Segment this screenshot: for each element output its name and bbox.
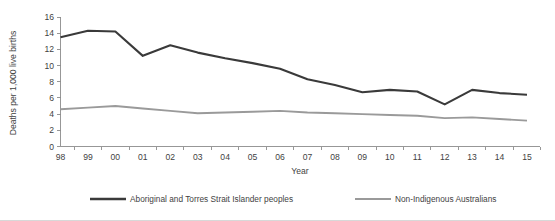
line-chart-figure: Deaths per 1,000 live births 02468101214… bbox=[0, 0, 555, 221]
y-tick-label-12: 12 bbox=[44, 44, 54, 54]
legend-label-0: Aboriginal and Torres Strait Islander pe… bbox=[130, 194, 293, 204]
bottom-divider bbox=[0, 220, 555, 221]
x-tick-label-98: 98 bbox=[56, 152, 66, 162]
y-tick-label-16: 16 bbox=[44, 12, 54, 22]
series-line-non-indigenous bbox=[61, 106, 528, 121]
x-tick-label-02: 02 bbox=[165, 152, 175, 162]
x-tick-label-14: 14 bbox=[495, 152, 505, 162]
x-tick-label-01: 01 bbox=[138, 152, 148, 162]
chart-plot-area: Deaths per 1,000 live births 02468101214… bbox=[0, 0, 555, 221]
y-axis-title: Deaths per 1,000 live births bbox=[8, 31, 18, 136]
x-tick-label-05: 05 bbox=[248, 152, 258, 162]
y-tick-label-14: 14 bbox=[44, 28, 54, 38]
x-axis-ticks: 989900010203040506070809101112131415 bbox=[56, 147, 541, 162]
x-tick-label-13: 13 bbox=[467, 152, 477, 162]
x-tick-label-08: 08 bbox=[330, 152, 340, 162]
x-tick-label-00: 00 bbox=[111, 152, 121, 162]
legend-label-1: Non-Indigenous Australians bbox=[395, 194, 496, 204]
y-tick-label-0: 0 bbox=[49, 142, 54, 152]
x-tick-label-03: 03 bbox=[193, 152, 203, 162]
x-tick-label-09: 09 bbox=[358, 152, 368, 162]
x-tick-label-11: 11 bbox=[413, 152, 422, 162]
chart-legend: Aboriginal and Torres Strait Islander pe… bbox=[90, 194, 496, 204]
series-line-indigenous bbox=[61, 31, 528, 105]
x-tick-label-99: 99 bbox=[83, 152, 93, 162]
x-tick-label-04: 04 bbox=[220, 152, 230, 162]
y-axis-ticks: 0246810121416 bbox=[44, 12, 60, 152]
x-tick-label-15: 15 bbox=[522, 152, 532, 162]
x-tick-label-10: 10 bbox=[385, 152, 395, 162]
y-tick-label-4: 4 bbox=[49, 109, 54, 119]
x-axis-title: Year bbox=[291, 166, 309, 176]
y-tick-label-2: 2 bbox=[49, 125, 54, 135]
y-tick-label-8: 8 bbox=[49, 77, 54, 87]
x-tick-label-07: 07 bbox=[303, 152, 313, 162]
y-tick-label-10: 10 bbox=[44, 61, 54, 71]
x-tick-label-06: 06 bbox=[275, 152, 285, 162]
chart-series-group bbox=[61, 31, 528, 121]
y-tick-label-6: 6 bbox=[49, 93, 54, 103]
x-tick-label-12: 12 bbox=[440, 152, 450, 162]
